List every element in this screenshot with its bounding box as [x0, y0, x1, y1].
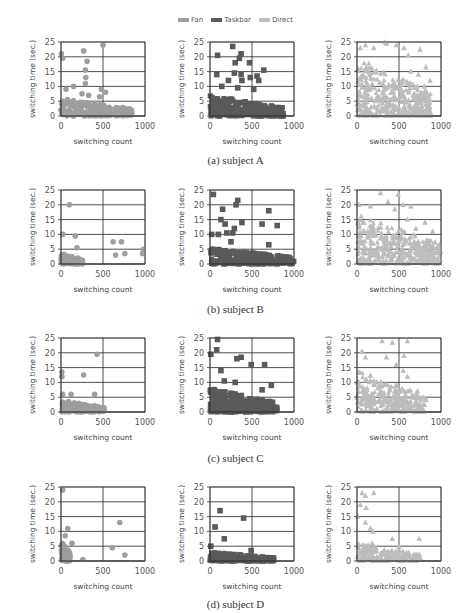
- svg-text:10: 10: [341, 82, 351, 91]
- svg-text:15: 15: [45, 364, 55, 373]
- svg-text:20: 20: [341, 53, 351, 62]
- svg-text:10: 10: [45, 527, 55, 536]
- data-points: [58, 42, 134, 118]
- svg-text:5: 5: [50, 393, 55, 402]
- svg-text:10: 10: [194, 230, 204, 239]
- svg-text:1000: 1000: [284, 567, 304, 576]
- svg-text:1000: 1000: [284, 270, 304, 279]
- y-axis-label: switching time (sec.): [177, 336, 186, 414]
- svg-text:500: 500: [391, 270, 406, 279]
- svg-text:5: 5: [346, 97, 351, 106]
- svg-text:1000: 1000: [431, 418, 451, 427]
- y-axis-label: switching time (sec.): [177, 485, 186, 563]
- legend-label-fan: Fan: [191, 16, 203, 24]
- svg-text:5: 5: [50, 542, 55, 551]
- svg-text:20: 20: [194, 201, 204, 210]
- svg-text:0: 0: [50, 260, 55, 269]
- data-points: [208, 44, 286, 119]
- svg-text:25: 25: [341, 186, 351, 195]
- svg-text:0: 0: [207, 270, 212, 279]
- svg-text:20: 20: [45, 349, 55, 358]
- scatter-plot-d-taskbar: 051015202505001000switching countswitchi…: [165, 482, 319, 596]
- y-axis-label: switching time (sec.): [177, 188, 186, 266]
- svg-text:0: 0: [346, 112, 351, 121]
- svg-text:0: 0: [354, 418, 359, 427]
- legend-item-direct: Direct: [259, 16, 293, 24]
- svg-text:20: 20: [194, 349, 204, 358]
- svg-text:20: 20: [45, 53, 55, 62]
- y-axis-label: switching time (sec.): [324, 40, 333, 118]
- svg-text:500: 500: [391, 418, 406, 427]
- x-axis-label: switching count: [369, 137, 428, 146]
- svg-text:15: 15: [341, 364, 351, 373]
- svg-text:15: 15: [45, 513, 55, 522]
- svg-text:25: 25: [194, 483, 204, 492]
- svg-text:10: 10: [45, 230, 55, 239]
- data-points: [59, 351, 107, 414]
- data-points: [355, 338, 429, 414]
- svg-text:500: 500: [244, 122, 259, 131]
- svg-text:500: 500: [244, 418, 259, 427]
- x-axis-label: switching count: [73, 137, 132, 146]
- x-axis-label: switching count: [73, 582, 132, 591]
- legend: Fan Taskbar Direct: [0, 16, 471, 24]
- svg-text:25: 25: [45, 186, 55, 195]
- svg-text:20: 20: [341, 349, 351, 358]
- caption-subject-b: (b) subject B: [0, 303, 471, 315]
- x-axis-label: switching count: [369, 285, 428, 294]
- svg-text:0: 0: [199, 112, 204, 121]
- svg-text:0: 0: [346, 408, 351, 417]
- svg-text:1000: 1000: [135, 418, 155, 427]
- svg-text:20: 20: [45, 201, 55, 210]
- y-axis-label: switching time (sec.): [324, 485, 333, 563]
- data-points: [208, 337, 280, 415]
- svg-text:500: 500: [244, 270, 259, 279]
- svg-text:0: 0: [354, 567, 359, 576]
- svg-text:15: 15: [194, 364, 204, 373]
- legend-swatch-fan: [178, 18, 189, 22]
- y-axis-label: switching time (sec.): [28, 188, 37, 266]
- x-axis-label: switching count: [222, 137, 281, 146]
- legend-item-taskbar: Taskbar: [211, 16, 251, 24]
- svg-text:5: 5: [199, 542, 204, 551]
- svg-text:500: 500: [95, 418, 110, 427]
- svg-text:25: 25: [341, 38, 351, 47]
- svg-text:10: 10: [45, 378, 55, 387]
- svg-text:20: 20: [341, 201, 351, 210]
- svg-text:10: 10: [194, 82, 204, 91]
- svg-text:0: 0: [58, 567, 63, 576]
- scatter-plot-b-direct: 051015202505001000switching countswitchi…: [312, 185, 466, 299]
- svg-text:500: 500: [95, 122, 110, 131]
- legend-swatch-taskbar: [211, 18, 222, 22]
- svg-text:5: 5: [50, 97, 55, 106]
- svg-text:10: 10: [45, 82, 55, 91]
- legend-label-direct: Direct: [272, 16, 293, 24]
- svg-text:15: 15: [341, 68, 351, 77]
- svg-text:15: 15: [45, 68, 55, 77]
- svg-text:5: 5: [50, 245, 55, 254]
- scatter-plot-b-taskbar: 051015202505001000switching countswitchi…: [165, 185, 319, 299]
- svg-text:20: 20: [341, 498, 351, 507]
- grid: [61, 190, 145, 264]
- scatter-plot-c-direct: 051015202505001000switching countswitchi…: [312, 333, 466, 447]
- scatter-plot-c-fan: 051015202505001000switching countswitchi…: [16, 333, 170, 447]
- svg-text:5: 5: [199, 393, 204, 402]
- y-axis-label: switching time (sec.): [28, 336, 37, 414]
- svg-text:15: 15: [194, 513, 204, 522]
- svg-text:25: 25: [194, 334, 204, 343]
- svg-text:15: 15: [194, 216, 204, 225]
- caption-subject-d: (d) subject D: [0, 598, 471, 610]
- svg-text:15: 15: [341, 513, 351, 522]
- svg-text:10: 10: [341, 378, 351, 387]
- scatter-plot-a-fan: 051015202505001000switching countswitchi…: [16, 37, 170, 151]
- svg-text:25: 25: [45, 483, 55, 492]
- svg-text:10: 10: [341, 230, 351, 239]
- svg-text:5: 5: [199, 97, 204, 106]
- caption-subject-c: (c) subject C: [0, 452, 471, 464]
- svg-text:0: 0: [207, 418, 212, 427]
- svg-text:25: 25: [45, 334, 55, 343]
- svg-text:0: 0: [354, 122, 359, 131]
- y-axis-label: switching time (sec.): [324, 336, 333, 414]
- x-axis-label: switching count: [222, 582, 281, 591]
- caption-subject-a: (a) subject A: [0, 154, 471, 166]
